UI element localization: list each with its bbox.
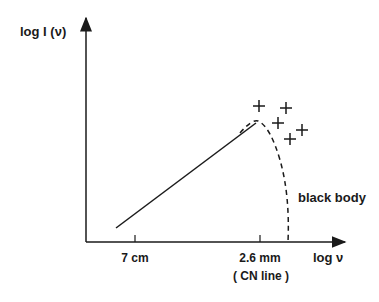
y-axis-label: log I (ν)	[20, 24, 66, 39]
spectrum-diagram: log I (ν) log ν 7 cm 2.6 mm ( CN line ) …	[0, 0, 379, 302]
synchrotron-line	[116, 123, 256, 228]
tick-sublabel-cn-line: ( CN line )	[233, 269, 289, 283]
black-body-curve	[240, 121, 288, 242]
tick-label-2-6mm: 2.6 mm	[239, 251, 280, 265]
x-axis-label: log ν	[313, 250, 343, 265]
data-markers	[253, 100, 308, 145]
tick-label-7cm: 7 cm	[121, 251, 148, 265]
black-body-label: black body	[298, 190, 367, 205]
